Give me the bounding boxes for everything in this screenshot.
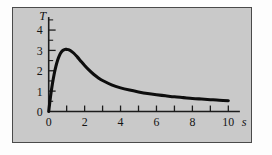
x-tick-label: 6	[153, 115, 159, 129]
y-tick-label: 4	[37, 24, 43, 38]
y-tick-label: 1	[37, 85, 43, 99]
y-tick-label: 2	[37, 64, 43, 78]
y-axis-label: T	[39, 9, 47, 23]
x-axis-label: s	[242, 115, 247, 129]
x-tick-label: 0	[46, 115, 52, 129]
data-curve	[49, 49, 229, 111]
x-axis-tick-labels: 0246810	[46, 115, 235, 129]
figure-root: 0246810 01234 T s	[0, 0, 272, 155]
axes-group	[49, 18, 239, 112]
x-tick-label: 2	[82, 115, 88, 129]
x-tick-label: 8	[189, 115, 195, 129]
x-tick-label: 10	[222, 115, 234, 129]
y-axis-tick-labels: 01234	[37, 24, 43, 119]
plot-area: 0246810 01234 T s	[13, 8, 251, 142]
chart-panel: 0246810 01234 T s	[12, 7, 252, 143]
y-tick-label: 3	[37, 44, 43, 58]
x-tick-label: 4	[118, 115, 124, 129]
x-axis-ticks	[67, 106, 229, 112]
chart-svg: 0246810 01234 T s	[13, 8, 251, 142]
y-tick-label: 0	[37, 105, 43, 119]
